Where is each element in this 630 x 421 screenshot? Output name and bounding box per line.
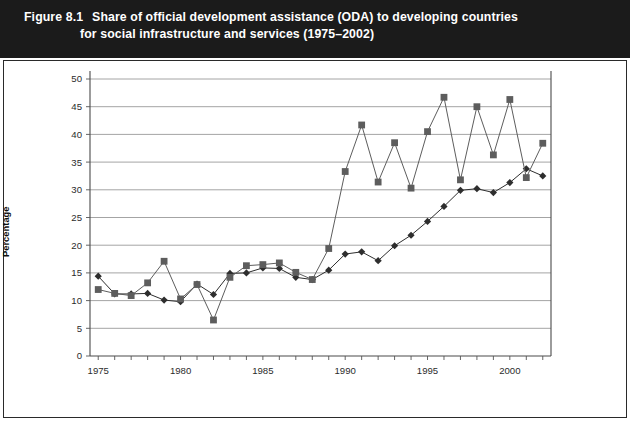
x-axis-tick-label: 1980 [170, 365, 191, 376]
data-point-marker [424, 128, 431, 135]
figure-number: Figure 8.1 [24, 10, 83, 24]
gridlines-group [90, 79, 551, 328]
line-chart-plot: 05101520253035404550 1975198019851990199… [4, 61, 628, 419]
series-all-donors [95, 165, 547, 305]
data-point-marker [292, 269, 299, 276]
data-point-marker [474, 103, 481, 110]
data-point-marker [457, 176, 464, 183]
data-point-marker [144, 290, 151, 297]
data-point-marker [523, 174, 530, 181]
y-axis-tick-label: 45 [71, 101, 82, 112]
data-point-marker [161, 258, 168, 265]
x-axis-tick-label: 1985 [252, 365, 273, 376]
data-point-marker [160, 296, 167, 303]
figure-title-text: Figure 8.1Share of official development … [24, 9, 614, 43]
data-point-marker [259, 261, 266, 268]
data-point-marker [539, 172, 546, 179]
data-point-marker [128, 292, 135, 299]
x-axis-tick-label: 1975 [88, 365, 109, 376]
y-axis-tick-label: 35 [71, 157, 82, 168]
data-point-marker [539, 140, 546, 147]
data-point-marker [358, 248, 365, 255]
y-axis-tick-label: 40 [71, 129, 82, 140]
y-axis-tick-label: 15 [71, 267, 82, 278]
data-point-marker [309, 276, 316, 283]
y-axis-tick-label: 25 [71, 212, 82, 223]
y-axis-tick-label: 10 [71, 295, 82, 306]
data-point-marker [358, 122, 365, 129]
axes-group [90, 71, 551, 356]
data-point-marker [144, 279, 151, 286]
y-axis-tick-label: 50 [71, 73, 82, 84]
data-point-marker [490, 152, 497, 159]
figure-title-line-2: for social infrastructure and services (… [80, 26, 614, 43]
data-point-marker [194, 281, 201, 288]
data-point-marker [227, 274, 234, 281]
figure-container: Figure 8.1Share of official development … [0, 0, 630, 421]
series-world-bank [95, 94, 546, 324]
chart-frame: Percentage 05101520253035404550 19751980… [3, 60, 627, 418]
y-axis-ticks-group [86, 79, 90, 356]
data-point-marker [177, 296, 184, 303]
data-point-marker [243, 269, 250, 276]
data-point-marker [342, 168, 349, 175]
x-axis-tick-label: 1995 [417, 365, 438, 376]
data-point-marker [506, 96, 513, 103]
y-axis-tick-label: 5 [77, 323, 82, 334]
data-point-marker [441, 94, 448, 101]
series-line [98, 97, 543, 320]
data-point-marker [375, 179, 382, 186]
y-axis-tick-label: 20 [71, 240, 82, 251]
data-point-marker [391, 139, 398, 146]
y-axis-tick-label: 0 [77, 350, 82, 361]
x-axis-ticks-group [98, 356, 543, 360]
y-axis-tick-labels: 05101520253035404550 [71, 73, 82, 361]
data-point-marker [408, 185, 415, 192]
data-point-marker [111, 290, 118, 297]
x-axis-tick-label: 2000 [499, 365, 520, 376]
data-point-marker [95, 286, 102, 293]
data-point-marker [243, 262, 250, 269]
data-point-marker [276, 260, 283, 267]
data-series-layer [95, 94, 547, 324]
x-axis-tick-labels: 197519801985199019952000 [88, 365, 521, 376]
data-point-marker [473, 185, 480, 192]
data-point-marker [210, 317, 217, 324]
data-point-marker [325, 245, 332, 252]
x-axis-tick-label: 1990 [335, 365, 356, 376]
y-axis-tick-label: 30 [71, 184, 82, 195]
figure-title-line-1: Share of official development assistance… [92, 10, 518, 24]
figure-title-banner: Figure 8.1Share of official development … [0, 0, 630, 58]
